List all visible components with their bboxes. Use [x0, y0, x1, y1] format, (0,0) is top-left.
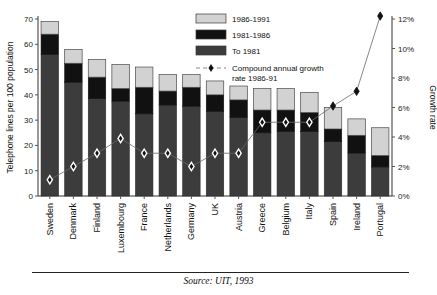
bar-segment-to-1981-denmark: [65, 82, 82, 196]
source-divider: [32, 272, 409, 273]
x-ticklabel-italy: Italy: [304, 203, 314, 220]
y-ticklabel-left-20: 20: [24, 141, 33, 150]
y-ticklabel-left-0: 0: [29, 192, 34, 201]
bar-segment-to-1981-belgium: [277, 132, 294, 196]
bar-segment-to-1981-germany: [183, 106, 200, 196]
x-ticklabel-denmark: Denmark: [68, 203, 78, 240]
bar-segment-1981-1986-france: [135, 87, 152, 114]
source-note: Source: UIT, 1993: [0, 276, 437, 286]
y-ticklabel-right-10: 10%: [398, 45, 414, 54]
y-ticklabel-right-6: 6%: [398, 104, 410, 113]
bar-segment-1986-1991-netherlands: [159, 75, 176, 91]
bar-segment-1981-1986-denmark: [65, 63, 82, 82]
bar-segment-1986-1991-germany: [183, 75, 200, 88]
legend-label-3-line2: rate 1986-91: [232, 74, 278, 83]
legend-label-3: Compound annual growth: [232, 64, 324, 73]
bar-segment-1981-1986-uk: [206, 95, 223, 111]
legend-swatch-0: [196, 14, 226, 23]
y-axis-title-right: Growth rate: [428, 85, 437, 130]
bar-segment-1981-1986-portugal: [371, 156, 388, 167]
bar-segment-1981-1986-austria: [230, 100, 247, 118]
chart-figure: 010203040506070Telephone lines per 100 p…: [0, 0, 437, 295]
y-ticklabel-right-12: 12%: [398, 15, 414, 24]
x-ticklabel-france: France: [139, 203, 149, 231]
legend-label-1: 1981-1986: [232, 31, 271, 40]
y-ticklabel-right-2: 2%: [398, 163, 410, 172]
y-ticklabel-left-60: 60: [24, 40, 33, 49]
bar-segment-1986-1991-austria: [230, 86, 247, 100]
y-ticklabel-left-70: 70: [24, 15, 33, 24]
bar-segment-1986-1991-portugal: [371, 128, 388, 156]
y-ticklabel-left-50: 50: [24, 66, 33, 75]
bar-segment-1986-1991-uk: [206, 81, 223, 95]
legend-swatch-2: [196, 46, 226, 55]
telephone-lines-growth-chart: 010203040506070Telephone lines per 100 p…: [0, 0, 437, 295]
x-ticklabel-belgium: Belgium: [281, 203, 291, 236]
bar-segment-1981-1986-netherlands: [159, 91, 176, 105]
bar-segment-1981-1986-sweden: [41, 34, 58, 54]
x-ticklabel-greece: Greece: [257, 203, 267, 233]
x-ticklabel-ireland: Ireland: [352, 203, 362, 231]
x-ticklabel-spain: Spain: [328, 203, 338, 226]
y-ticklabel-left-40: 40: [24, 91, 33, 100]
legend-label-0: 1986-1991: [232, 15, 271, 24]
bar-segment-1986-1991-finland: [88, 59, 105, 77]
y-axis-title-left: Telephone lines per 100 population: [5, 41, 15, 173]
bar-segment-to-1981-ireland: [348, 153, 365, 196]
bar-segment-1981-1986-ireland: [348, 135, 365, 153]
bar-segment-1981-1986-germany: [183, 87, 200, 106]
bar-segment-1986-1991-greece: [253, 89, 270, 110]
bar-segment-to-1981-spain: [324, 142, 341, 196]
x-ticklabel-finland: Finland: [92, 203, 102, 233]
x-ticklabel-netherlands: Netherlands: [163, 203, 173, 252]
bar-segment-1986-1991-belgium: [277, 89, 294, 110]
legend-growth-marker-icon: [209, 64, 214, 72]
legend-label-2: To 1981: [232, 47, 261, 56]
y-ticklabel-right-4: 4%: [398, 133, 410, 142]
bar-segment-1981-1986-finland: [88, 77, 105, 98]
x-ticklabel-austria: Austria: [234, 203, 244, 231]
bar-segment-1981-1986-luxembourg: [112, 89, 129, 102]
bar-segment-1986-1991-italy: [301, 92, 318, 112]
bar-segment-to-1981-portugal: [371, 167, 388, 196]
y-ticklabel-left-10: 10: [24, 167, 33, 176]
legend-swatch-1: [196, 30, 226, 39]
y-ticklabel-right-8: 8%: [398, 74, 410, 83]
bar-segment-1986-1991-sweden: [41, 22, 58, 35]
bar-segment-to-1981-italy: [301, 132, 318, 196]
growth-marker-portugal: [378, 12, 383, 20]
growth-marker-ireland: [354, 87, 359, 95]
bar-segment-1986-1991-luxembourg: [112, 65, 129, 89]
bar-segment-to-1981-luxembourg: [112, 101, 129, 196]
bar-segment-1981-1986-spain: [324, 129, 341, 142]
y-ticklabel-right-0: 0%: [398, 192, 410, 201]
x-ticklabel-luxembourg: Luxembourg: [116, 203, 126, 253]
y-ticklabel-left-30: 30: [24, 116, 33, 125]
bar-segment-to-1981-greece: [253, 133, 270, 196]
x-ticklabel-uk: UK: [210, 203, 220, 216]
bar-segment-1986-1991-denmark: [65, 49, 82, 63]
x-ticklabel-germany: Germany: [186, 203, 196, 241]
x-ticklabel-sweden: Sweden: [45, 203, 55, 236]
bar-segment-1986-1991-ireland: [348, 119, 365, 135]
bar-segment-1986-1991-france: [135, 67, 152, 87]
bar-segment-to-1981-finland: [88, 99, 105, 196]
x-ticklabel-portugal: Portugal: [375, 203, 385, 237]
